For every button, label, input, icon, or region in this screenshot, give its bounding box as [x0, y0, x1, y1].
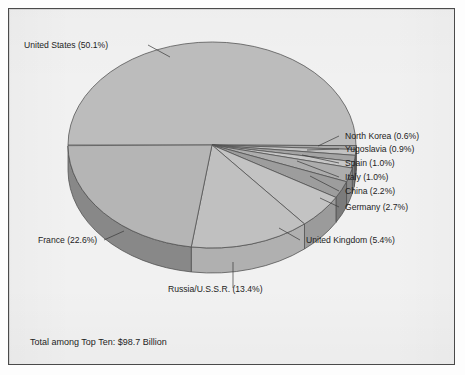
- label-united-states: United States (50.1%): [24, 40, 108, 50]
- pie-slice-france: [68, 145, 212, 247]
- label-spain: Spain (1.0%): [345, 158, 395, 168]
- total-footnote: Total among Top Ten: $98.7 Billion: [30, 337, 167, 347]
- pie-slice-tops: [68, 42, 356, 248]
- label-yugoslavia: Yugoslavia (0.9%): [345, 144, 414, 154]
- label-north-korea: North Korea (0.6%): [345, 131, 419, 141]
- pie-chart-svg: United States (50.1%)North Korea (0.6%)Y…: [0, 0, 465, 375]
- label-united-kingdom: United Kingdom (5.4%): [306, 235, 395, 245]
- label-france: France (22.6%): [38, 235, 97, 245]
- chart-figure: United States (50.1%)North Korea (0.6%)Y…: [0, 0, 465, 375]
- pie-slice-united-states: [68, 42, 356, 146]
- label-italy: Italy (1.0%): [345, 172, 389, 182]
- label-china: China (2.2%): [345, 186, 395, 196]
- label-russia-ussr: Russia/U.S.S.R. (13.4%): [168, 284, 263, 294]
- label-germany: Germany (2.7%): [345, 202, 408, 212]
